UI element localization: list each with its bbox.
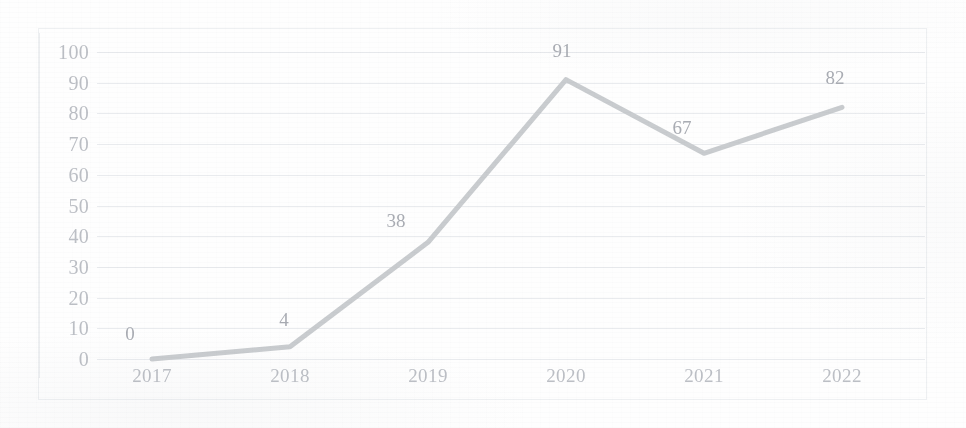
data-series-line bbox=[152, 80, 842, 359]
data-point-label: 91 bbox=[553, 40, 572, 59]
data-point-label: 38 bbox=[387, 211, 406, 230]
data-point-label: 82 bbox=[826, 68, 845, 87]
data-point-label: 0 bbox=[125, 324, 135, 343]
line-series-layer bbox=[0, 0, 966, 428]
data-point-label: 67 bbox=[673, 118, 692, 137]
data-point-label: 4 bbox=[279, 309, 289, 328]
scanned-page: 1009080706050403020100 20172018201920202… bbox=[0, 0, 966, 428]
